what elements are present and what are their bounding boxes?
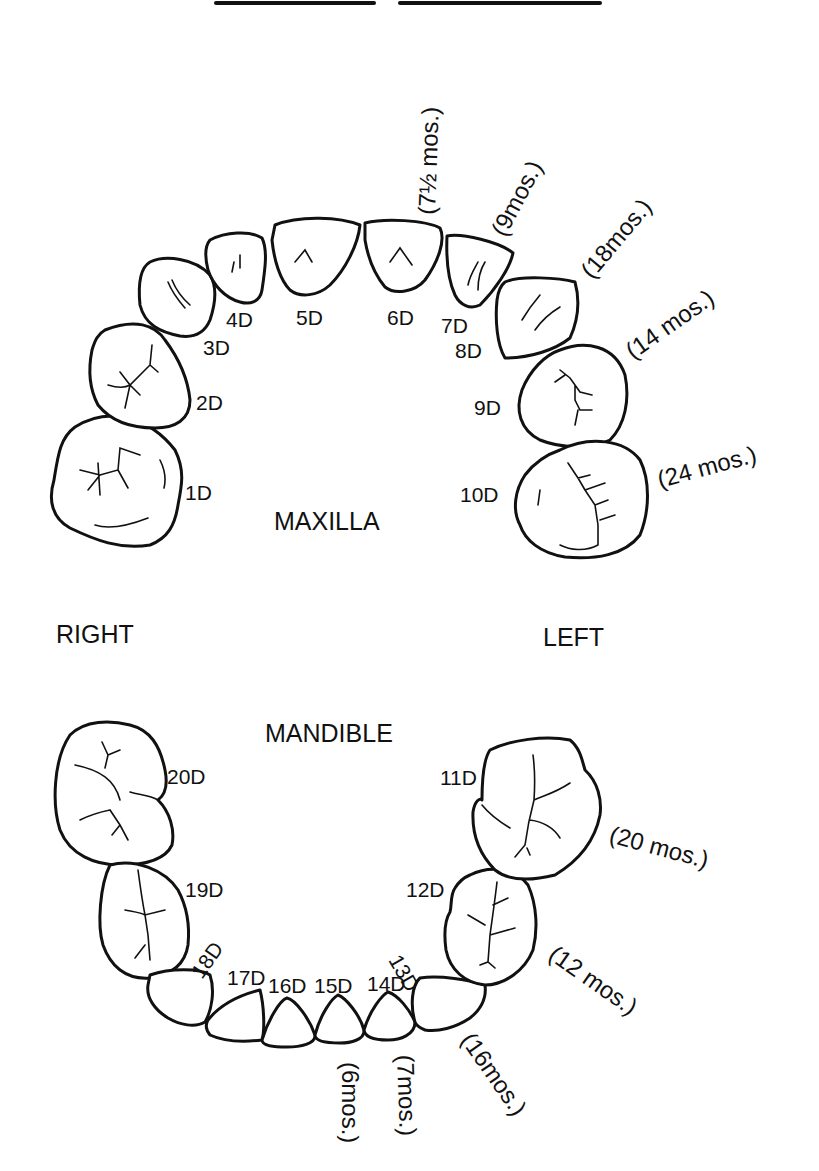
age-11D: (20 mos.) [607,821,712,873]
tooth-10D [515,441,647,558]
maxilla-tooth-labels: 1D 2D 3D 4D 5D 6D 7D 8D 9D 10D [185,306,501,506]
tooth-3D [139,258,215,336]
label-16D: 16D [268,974,307,997]
tooth-5D [272,218,360,295]
label-3D: 3D [203,336,230,359]
tooth-2D [90,324,190,428]
tooth-6D [365,220,442,291]
tooth-13D [412,977,485,1030]
mandible-heading: MANDIBLE [265,719,393,747]
tooth-8D [496,278,577,358]
label-9D: 9D [474,396,501,419]
maxilla-heading: MAXILLA [274,507,380,535]
label-6D: 6D [387,306,414,329]
label-17D: 17D [227,966,266,989]
label-12D: 12D [406,878,445,901]
age-8D: (18mos.) [575,193,657,283]
mandible-tooth-labels: 11D 12D 13D 14D 15D 16D 17D 18D 19D 20D [167,765,477,997]
label-7D: 7D [441,314,468,337]
tooth-17D [206,990,263,1041]
label-5D: 5D [296,306,323,329]
tooth-9D [519,345,627,446]
label-14D: 14D [367,972,406,995]
age-13D: (16mos.) [456,1027,532,1120]
label-15D: 15D [314,974,353,997]
tooth-12D [445,869,536,985]
label-19D: 19D [185,878,224,901]
age-7D: (9mos.) [486,156,548,240]
label-1D: 1D [185,481,212,504]
mandible-arch [55,722,600,1047]
right-side-label: RIGHT [56,620,134,648]
tooth-19D [100,863,189,978]
tooth-20D [55,722,173,865]
age-14D: (7mos.) [392,1054,422,1136]
age-10D: (24 mos.) [654,441,759,493]
label-2D: 2D [196,391,223,414]
age-9D: (14 mos.) [620,284,719,364]
label-8D: 8D [455,339,482,362]
label-20D: 20D [167,765,206,788]
left-side-label: LEFT [543,623,604,651]
tooth-16D [262,998,315,1047]
age-12D: (12 mos.) [544,940,643,1020]
label-4D: 4D [226,308,253,331]
tooth-14D [364,992,415,1040]
age-6D: (7½ mos.) [413,106,444,215]
tooth-11D [473,738,601,879]
tooth-15D [315,995,364,1043]
age-15D: (6mos.) [337,1062,364,1143]
primary-dentition-diagram: 1D 2D 3D 4D 5D 6D 7D 8D 9D 10D (7½ mos.)… [0,0,819,1171]
label-11D: 11D [440,766,477,789]
label-10D: 10D [460,483,499,506]
tooth-1D [51,416,181,546]
